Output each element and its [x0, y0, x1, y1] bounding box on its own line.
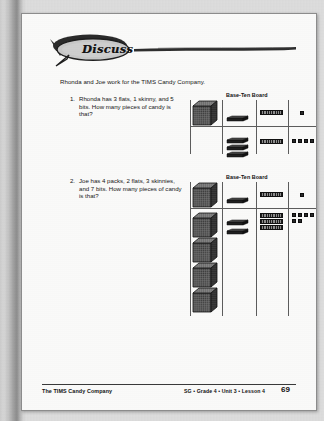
flat-piece — [226, 221, 251, 228]
bit-piece — [298, 139, 302, 143]
board-1-vline-3 — [288, 100, 289, 154]
bit-piece — [304, 139, 308, 143]
board-1-vline-1 — [222, 100, 223, 154]
bit-piece — [316, 213, 317, 217]
bit-piece — [300, 111, 304, 115]
bit-piece — [304, 213, 308, 217]
problem-1-text: Rhonda has 3 flats, 1 skinny, and 5 bits… — [79, 95, 183, 118]
skinny-piece — [260, 110, 283, 115]
flat-piece — [226, 108, 251, 115]
pack-piece — [192, 262, 218, 288]
board-2-title: Base-Ten Board — [226, 174, 268, 180]
bit-group — [292, 213, 317, 217]
page-number: 69 — [281, 385, 290, 394]
flat-piece — [226, 144, 251, 151]
board-1-title: Base-Ten Board — [226, 92, 268, 98]
problem-1: 1. Rhonda has 3 flats, 1 skinny, and 5 b… — [66, 95, 183, 118]
bit-piece — [300, 193, 304, 197]
board-2-vline-1 — [222, 182, 223, 316]
pack-piece — [192, 287, 218, 313]
pack-piece — [192, 182, 218, 208]
board-2-hline-mid — [190, 208, 316, 209]
speech-bubble-icon — [38, 30, 300, 68]
pack-piece — [192, 100, 218, 126]
skinny-piece — [260, 225, 283, 230]
bit-group — [300, 193, 304, 197]
skinny-piece — [260, 139, 283, 144]
flat-piece — [226, 130, 251, 137]
footer-left-text: The TIMS Candy Company — [42, 388, 112, 394]
skinny-piece — [260, 192, 283, 197]
bit-group — [292, 139, 317, 143]
footer-center-text: SG • Grade 4 • Unit 3 • Lesson 4 — [184, 388, 265, 394]
pack-piece — [192, 212, 218, 238]
problem-2-text: Joe has 4 packs, 2 flats, 3 skinnies, an… — [79, 177, 183, 200]
bit-group — [300, 111, 304, 115]
skinny-piece — [260, 213, 283, 218]
flat-piece — [226, 137, 251, 144]
bit-piece — [310, 139, 314, 143]
board-2-vline-0 — [190, 182, 191, 316]
bit-piece — [292, 213, 296, 217]
page-content: Discuss Rhonda and Joe work for the TIMS… — [22, 14, 316, 410]
footer-rule — [42, 384, 296, 385]
flat-piece — [226, 212, 251, 219]
problem-1-number: 1. — [66, 95, 75, 103]
flat-piece — [226, 190, 251, 197]
bit-group — [292, 219, 302, 223]
bit-piece — [310, 213, 314, 217]
bit-piece — [292, 219, 296, 223]
bit-piece — [292, 139, 296, 143]
base-ten-board-2: Base-Ten Board — [190, 174, 316, 316]
board-1-vline-0 — [190, 100, 191, 154]
pack-piece — [192, 237, 218, 263]
board-1-hline-mid — [190, 126, 316, 127]
bit-piece — [316, 139, 317, 143]
bit-piece — [298, 219, 302, 223]
discuss-banner: Discuss — [38, 30, 300, 68]
discuss-label: Discuss — [82, 42, 133, 56]
bit-piece — [298, 213, 302, 217]
intro-text: Rhonda and Joe work for the TIMS Candy C… — [60, 78, 205, 85]
board-1-vline-2 — [256, 100, 257, 154]
worksheet-page: Discuss Rhonda and Joe work for the TIMS… — [21, 13, 317, 411]
problem-2-number: 2. — [66, 177, 75, 185]
base-ten-board-1: Base-Ten Board — [190, 92, 316, 154]
board-2-vline-3 — [288, 182, 289, 316]
skinny-piece — [260, 219, 283, 224]
problem-2: 2. Joe has 4 packs, 2 flats, 3 skinnies,… — [66, 177, 183, 200]
board-2-vline-2 — [256, 182, 257, 316]
